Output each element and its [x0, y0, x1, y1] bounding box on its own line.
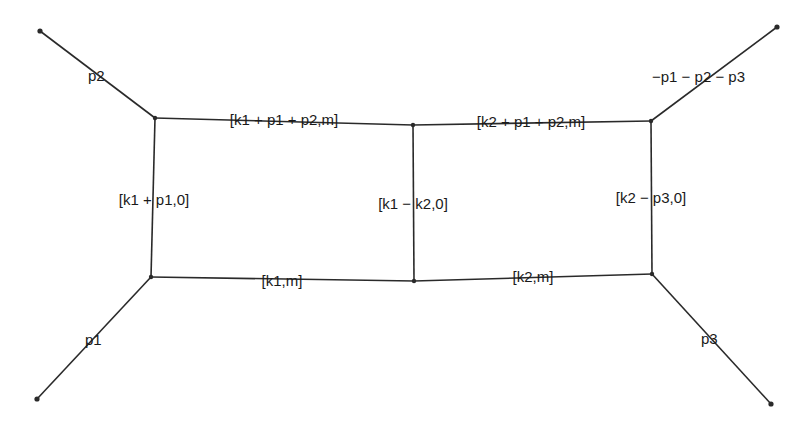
edge-label-p2: p2 — [88, 67, 105, 84]
vertex-B — [411, 123, 415, 127]
edge-label-top-left: [k1 + p1 + p2,m] — [230, 111, 338, 128]
edge-label-right: [k2 − p3,0] — [616, 189, 686, 206]
feynman-diagram: p2[k1 + p1 + p2,m][k2 + p1 + p2,m]−p1 − … — [0, 0, 808, 426]
vertex-A — [153, 116, 157, 120]
edge-label-bottom-left: [k1,m] — [262, 272, 303, 289]
vertex-ext_p123 — [774, 24, 779, 29]
vertex-ext_p2 — [37, 28, 42, 33]
edge-label-p1: p1 — [85, 331, 102, 348]
vertex-C — [649, 119, 653, 123]
edge-label-left: [k1 + p1,0] — [119, 191, 189, 208]
edge-label-p123: −p1 − p2 − p3 — [652, 68, 745, 85]
vertex-D — [149, 275, 153, 279]
vertex-E — [412, 279, 416, 283]
edge-label-bottom-right: [k2,m] — [513, 268, 554, 285]
vertex-ext_p3 — [768, 401, 773, 406]
edge-label-middle: [k1 − k2,0] — [378, 195, 448, 212]
vertex-ext_p1 — [34, 396, 39, 401]
edge-label-top-right: [k2 + p1 + p2,m] — [477, 113, 585, 130]
vertex-F — [650, 272, 654, 276]
edge-label-p3: p3 — [701, 330, 718, 347]
